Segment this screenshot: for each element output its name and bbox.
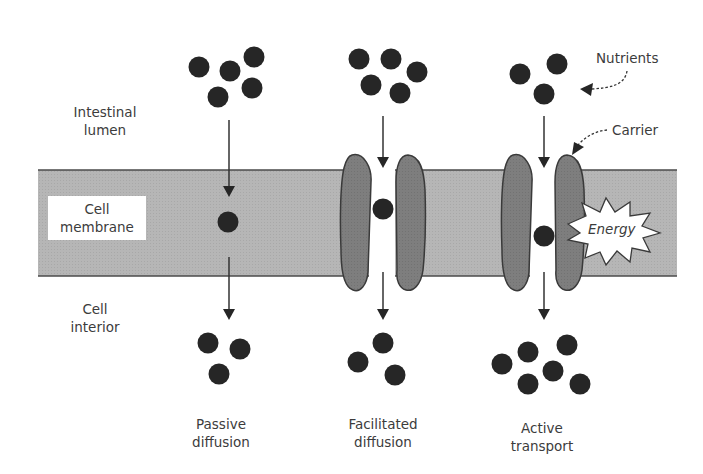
passive-top-nutrients: [189, 47, 265, 108]
facilitated-bottom-nutrients: [348, 333, 406, 386]
cell-membrane-label: Cell membrane: [48, 196, 146, 240]
nutrients-callout: Nutrients: [596, 49, 658, 67]
passive-membrane-nutrient: [218, 212, 239, 233]
facilitated-membrane-nutrient: [373, 199, 394, 220]
passive-diffusion-label: Passive diffusion: [176, 415, 266, 451]
facilitated-top-nutrients: [349, 49, 428, 104]
transport-diagram: Intestinal lumen Cell membrane Cell inte…: [0, 0, 703, 474]
passive-bottom-nutrients: [198, 333, 251, 385]
active-top-nutrients: [510, 54, 568, 105]
facilitated-channel: [369, 165, 395, 281]
active-membrane-nutrient: [534, 226, 555, 247]
active-channel: [530, 165, 556, 281]
carrier-pointer: [572, 130, 607, 155]
active-arrow-in: [538, 116, 550, 168]
carrier-callout: Carrier: [612, 121, 658, 139]
facilitated-arrow-in: [377, 116, 389, 168]
cell-interior-label: Cell interior: [60, 300, 130, 336]
active-bottom-nutrients: [492, 335, 591, 395]
active-transport-label: Active transport: [497, 419, 587, 455]
intestinal-lumen-label: Intestinal lumen: [60, 103, 150, 139]
facilitated-diffusion-label: Facilitated diffusion: [333, 415, 433, 451]
energy-label: Energy: [588, 221, 636, 237]
nutrients-pointer: [580, 71, 627, 96]
